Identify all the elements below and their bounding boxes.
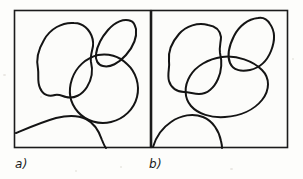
figure-container: a) b)	[0, 0, 303, 179]
panel-b	[152, 11, 288, 149]
panel-a	[15, 11, 151, 149]
figure-canvas	[0, 0, 303, 179]
panel-a-caption: a)	[15, 157, 28, 171]
panel-b-caption: b)	[149, 157, 162, 171]
panel-a-frame	[15, 11, 151, 148]
